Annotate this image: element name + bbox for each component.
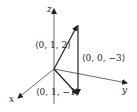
- y-axis-label: y: [121, 85, 128, 95]
- z-axis-label: z: [46, 4, 52, 14]
- vector-label-0-1-neg1: ⟨0, 1, −1⟩: [36, 87, 79, 97]
- x-axis-label: x: [9, 94, 14, 104]
- vector-label-0-1-2: ⟨0, 1, 2⟩: [35, 40, 71, 50]
- vector-diagram: z y x ⟨0, 1, 2⟩ ⟨0, 0, −3⟩ ⟨0, 1, −1⟩: [0, 0, 137, 112]
- vectors: [54, 25, 78, 94]
- vector-label-0-0-neg3: ⟨0, 0, −3⟩: [82, 53, 125, 63]
